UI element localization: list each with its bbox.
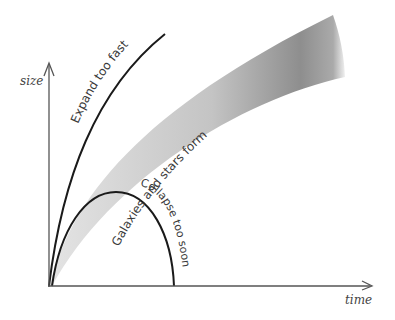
y-axis-label: size <box>20 74 43 88</box>
x-axis-label: time <box>345 293 372 307</box>
collapse-too-soon-label: Collapse too soon <box>139 176 192 268</box>
universe-size-diagram: size time Expand too fast Galaxies and s… <box>0 0 395 320</box>
habitable-band <box>50 15 345 286</box>
